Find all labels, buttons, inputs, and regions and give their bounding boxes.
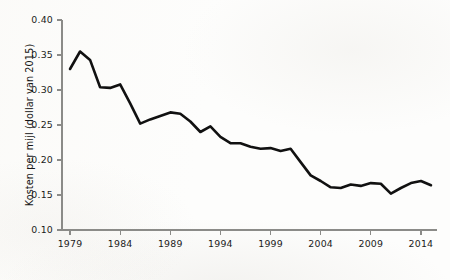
- y-tick-label: 0.10: [31, 224, 53, 235]
- data-series-line: [70, 52, 431, 194]
- x-tick-label: 1999: [258, 238, 283, 249]
- x-tick-label: 1994: [208, 238, 233, 249]
- x-tick-label: 2009: [358, 238, 383, 249]
- chart-figure: 0.100.150.200.250.300.350.40 19791984198…: [0, 0, 450, 280]
- x-tick-label: 1989: [158, 238, 183, 249]
- y-axis-title: Kosten per mijl (dollar van 2015): [24, 44, 35, 207]
- x-tick-label: 2004: [308, 238, 333, 249]
- x-tick-label: 1984: [108, 238, 133, 249]
- line-chart-plot: 0.100.150.200.250.300.350.40 19791984198…: [0, 0, 450, 280]
- x-axis-tick-labels: 19791984198919941999200420092014: [58, 238, 434, 249]
- y-tick-label: 0.40: [31, 14, 53, 25]
- y-axis-ticks: [57, 20, 62, 230]
- x-tick-label: 2014: [409, 238, 434, 249]
- x-tick-label: 1979: [58, 238, 83, 249]
- x-axis-ticks: [70, 230, 421, 235]
